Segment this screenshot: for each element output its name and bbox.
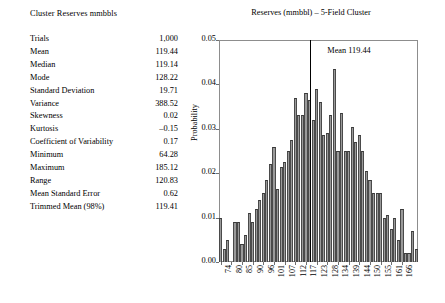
figure-root: Cluster Reserves mmbbls Trials1,000Mean1… <box>0 0 445 303</box>
statistic-label: Trimmed Mean (98%) <box>30 201 146 214</box>
x-tick-label: 85 <box>245 265 254 273</box>
statistic-value: –0.15 <box>146 123 178 136</box>
statistic-label: Coefficient of Variability <box>30 136 146 149</box>
y-tick-mark <box>216 129 219 130</box>
statistic-value: 119.44 <box>146 46 178 59</box>
statistic-label: Mode <box>30 72 146 85</box>
x-tick-label: 134 <box>341 265 350 277</box>
statistic-label: Standard Deviation <box>30 85 146 98</box>
statistic-label: Variance <box>30 98 146 111</box>
statistic-value: 388.52 <box>146 98 178 111</box>
statistics-row: Median119.14 <box>30 59 178 72</box>
statistic-value: 119.14 <box>146 59 178 72</box>
x-tick-label: 144 <box>363 265 372 277</box>
mean-annotation-label: Mean 119.44 <box>327 46 370 55</box>
statistics-row: Variance388.52 <box>30 98 178 111</box>
statistics-row: Trimmed Mean (98%)119.41 <box>30 201 178 214</box>
statistics-row: Mean119.44 <box>30 46 178 59</box>
x-tick-label: 80 <box>235 265 244 273</box>
statistic-value: 185.12 <box>146 162 178 175</box>
statistic-label: Median <box>30 59 146 72</box>
histogram-bar <box>226 240 229 262</box>
y-tick-mark <box>216 218 219 219</box>
statistics-row: Standard Deviation19.71 <box>30 85 178 98</box>
statistic-value: 128.22 <box>146 72 178 85</box>
x-tick-label: 74 <box>224 265 233 273</box>
y-tick-mark <box>216 262 219 263</box>
statistic-value: 1,000 <box>146 33 178 46</box>
statistics-row: Range120.83 <box>30 175 178 188</box>
x-tick-label: 112 <box>299 265 308 277</box>
statistic-value: 0.02 <box>146 110 178 123</box>
x-tick-label: 166 <box>405 265 414 277</box>
chart-title: Reserves (mmbbl) – 5-Field Cluster <box>186 8 436 17</box>
statistic-value: 119.41 <box>146 201 178 214</box>
y-axis-ticks: 0.000.010.020.030.040.05 <box>186 0 216 303</box>
y-tick-label: 0.05 <box>190 35 216 43</box>
x-tick-label: 101 <box>277 265 286 277</box>
statistic-label: Mean <box>30 46 146 59</box>
x-tick-label: 161 <box>395 265 404 277</box>
y-tick-label: 0.00 <box>190 257 216 265</box>
y-tick-mark <box>216 173 219 174</box>
x-tick-label: 107 <box>288 265 297 277</box>
statistics-table: Trials1,000Mean119.44Median119.14Mode128… <box>30 33 178 214</box>
y-tick-label: 0.04 <box>190 79 216 87</box>
statistic-label: Range <box>30 175 146 188</box>
statistic-value: 64.28 <box>146 149 178 162</box>
statistics-row: Coefficient of Variability0.17 <box>30 136 178 149</box>
statistics-row: Mode128.22 <box>30 72 178 85</box>
statistic-label: Kurtosis <box>30 123 146 136</box>
y-tick-label: 0.01 <box>190 213 216 221</box>
plot-area: Mean 119.44 <box>219 40 418 262</box>
y-tick-mark <box>216 84 219 85</box>
histogram-bar <box>415 249 418 262</box>
statistics-row: Mean Standard Error0.62 <box>30 188 178 201</box>
statistics-row: Minimum64.28 <box>30 149 178 162</box>
x-tick-label: 123 <box>320 265 329 277</box>
x-axis-tick-labels: 7480859096101107112117123128134139144150… <box>219 265 424 303</box>
statistic-label: Trials <box>30 33 146 46</box>
x-tick-label: 128 <box>331 265 340 277</box>
y-tick-label: 0.02 <box>190 168 216 176</box>
statistic-value: 120.83 <box>146 175 178 188</box>
statistic-label: Minimum <box>30 149 146 162</box>
statistic-value: 19.71 <box>146 85 178 98</box>
histogram-chart: Reserves (mmbbl) – 5-Field Cluster Proba… <box>186 0 445 303</box>
statistics-row: Kurtosis–0.15 <box>30 123 178 136</box>
x-tick-label: 96 <box>267 265 276 273</box>
statistics-panel-title: Cluster Reserves mmbbls <box>30 9 117 18</box>
y-tick-label: 0.03 <box>190 124 216 132</box>
x-tick-label: 155 <box>384 265 393 277</box>
statistic-value: 0.17 <box>146 136 178 149</box>
y-tick-mark <box>216 40 219 41</box>
mean-reference-line <box>310 40 311 262</box>
x-tick-label: 139 <box>352 265 361 277</box>
x-tick-label: 90 <box>256 265 265 273</box>
statistics-row: Maximum185.12 <box>30 162 178 175</box>
statistics-row: Skewness0.02 <box>30 110 178 123</box>
statistic-label: Maximum <box>30 162 146 175</box>
statistic-value: 0.62 <box>146 188 178 201</box>
statistic-label: Mean Standard Error <box>30 188 146 201</box>
statistic-label: Skewness <box>30 110 146 123</box>
statistics-row: Trials1,000 <box>30 33 178 46</box>
histogram-bars <box>219 40 418 262</box>
statistics-panel: Cluster Reserves mmbbls Trials1,000Mean1… <box>0 0 190 303</box>
x-tick-label: 117 <box>309 265 318 277</box>
x-tick-label: 150 <box>373 265 382 277</box>
